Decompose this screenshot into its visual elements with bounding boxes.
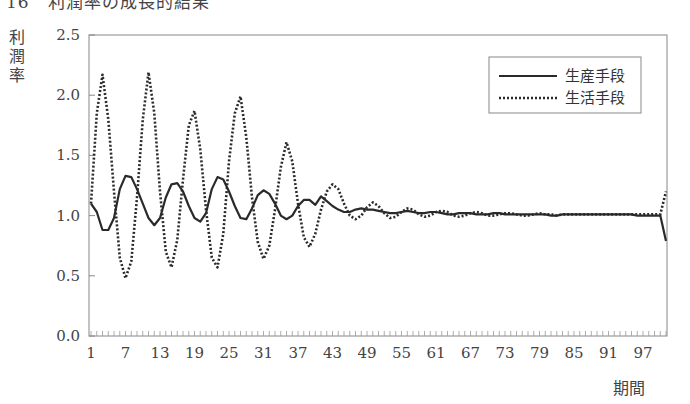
x-tick-label: 55: [392, 344, 411, 362]
y-tick-label: 1.5: [56, 146, 80, 164]
y-tick-label: 2.0: [56, 86, 80, 104]
x-tick-label: 85: [564, 344, 583, 362]
x-tick-label: 7: [121, 344, 131, 362]
legend: 生産手段生活手段: [489, 57, 641, 113]
y-tick-label: 0.5: [56, 267, 80, 285]
x-tick-label: 25: [219, 344, 238, 362]
x-tick-label: 43: [323, 344, 342, 362]
y-tick-label: 2.5: [56, 26, 80, 44]
x-tick-label: 73: [495, 344, 514, 362]
x-tick-label: 97: [633, 344, 652, 362]
x-tick-label: 67: [461, 344, 480, 362]
line-chart: 0.00.51.01.52.02.51713192531374349556167…: [0, 0, 690, 404]
x-tick-label: 49: [357, 344, 376, 362]
x-tick-label: 37: [288, 344, 307, 362]
x-tick-label: 1: [86, 344, 96, 362]
x-tick-label: 19: [185, 344, 204, 362]
y-tick-label: 1.0: [56, 207, 80, 225]
legend-label: 生活手段: [565, 89, 625, 107]
x-tick-label: 91: [599, 344, 618, 362]
x-tick-label: 61: [426, 344, 445, 362]
legend-label: 生産手段: [565, 67, 625, 85]
x-tick-label: 13: [150, 344, 169, 362]
x-tick-label: 79: [530, 344, 549, 362]
y-tick-label: 0.0: [56, 327, 80, 345]
x-tick-label: 31: [254, 344, 273, 362]
